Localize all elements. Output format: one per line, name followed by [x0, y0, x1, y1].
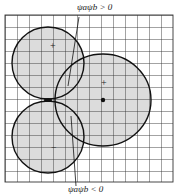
- label-negative-overlap: ψaψb < 0: [68, 184, 103, 194]
- nucleus-a-icon: [44, 98, 52, 102]
- nucleus-b-icon: [101, 98, 105, 102]
- sign-upper-lobe: +: [50, 40, 56, 51]
- grid: [5, 15, 173, 182]
- orbital-overlap-diagram: [0, 0, 177, 194]
- sign-s-orbital: +: [101, 77, 107, 88]
- label-positive-overlap: ψaψb > 0: [77, 2, 112, 12]
- sign-lower-lobe: −: [51, 142, 57, 153]
